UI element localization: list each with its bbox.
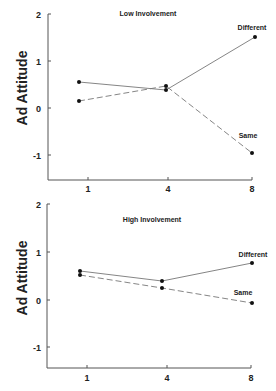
series-line — [79, 86, 252, 153]
data-point — [164, 88, 168, 92]
series-same: Same — [77, 84, 257, 155]
x-tick-label: 4 — [165, 184, 170, 194]
data-point — [164, 84, 168, 88]
y-tick-label: 0 — [36, 104, 41, 114]
series-label: Same — [234, 289, 253, 296]
series-line — [80, 275, 252, 303]
data-point — [77, 80, 81, 84]
x-tick-label: 8 — [248, 373, 253, 383]
series-line — [80, 263, 252, 281]
series-label: Same — [239, 132, 258, 139]
data-point — [253, 35, 257, 39]
y-tick-label: 1 — [36, 248, 41, 258]
data-point — [78, 269, 82, 273]
x-tick-label: 8 — [249, 184, 254, 194]
y-tick-label: -1 — [33, 151, 41, 161]
y-tick-label: 2 — [36, 10, 41, 20]
data-point — [78, 273, 82, 277]
y-tick-label: 0 — [36, 296, 41, 306]
series-line — [79, 37, 255, 90]
x-tick-label: 1 — [84, 373, 89, 383]
series-different: Different — [77, 24, 267, 92]
x-tick-label: 1 — [85, 184, 90, 194]
chart-high-involvement: Ad Attitude High Involvement 2 1 0 -1 1 … — [14, 200, 268, 383]
series-label: Different — [238, 24, 267, 31]
chart-title: Low Involvement — [120, 10, 177, 17]
data-point — [250, 151, 254, 155]
x-tick-label: 4 — [164, 373, 169, 383]
series-same: Same — [78, 273, 254, 305]
data-point — [160, 279, 164, 283]
series-different: Different — [78, 251, 268, 283]
data-point — [160, 286, 164, 290]
chart-title: High Involvement — [123, 216, 182, 224]
y-tick-label: -1 — [33, 343, 41, 353]
y-axis-label: Ad Attitude — [14, 50, 30, 125]
series-label: Different — [239, 251, 268, 258]
y-tick-label: 2 — [36, 200, 41, 210]
y-tick-label: 1 — [36, 57, 41, 67]
y-axis-label: Ad Attitude — [14, 240, 30, 315]
data-point — [250, 301, 254, 305]
data-point — [77, 99, 81, 103]
chart-low-involvement: Ad Attitude Low Involvement 2 1 0 -1 1 4… — [14, 10, 267, 194]
figure: Ad Attitude Low Involvement 2 1 0 -1 1 4… — [0, 0, 276, 391]
data-point — [250, 261, 254, 265]
